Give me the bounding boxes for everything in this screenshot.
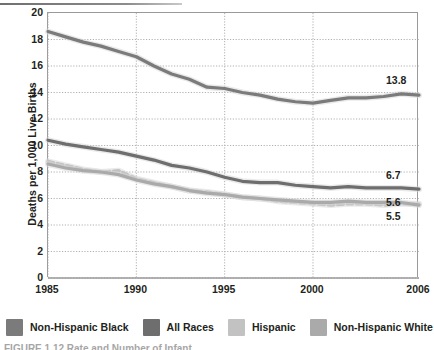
y-axis-tick-label: 14 (3, 86, 43, 98)
series-end-label: 5.6 (386, 196, 401, 208)
y-axis-tick-label: 8 (3, 165, 43, 177)
legend-swatch-all-races (143, 319, 160, 336)
top-rule-divider (0, 3, 182, 5)
x-axis-tick-label: 1990 (124, 283, 147, 295)
legend-swatch-hispanic (228, 319, 245, 336)
series-end-label: 6.7 (386, 169, 401, 181)
legend-item: Non-Hispanic Black (6, 319, 129, 336)
x-axis-tick-label: 2000 (300, 283, 323, 295)
y-axis-tick-label: 4 (3, 218, 43, 230)
plot-area (47, 12, 418, 277)
y-axis-tick-label: 12 (3, 112, 43, 124)
y-axis-tick-label: 10 (3, 139, 43, 151)
y-axis-tick-label: 0 (3, 271, 43, 283)
legend-item-label: All Races (167, 321, 214, 333)
figure-caption: FIGURE 1.12 Rate and Number of Infant (4, 343, 192, 350)
legend-swatch-non-hispanic-white (310, 319, 327, 336)
x-axis-tick-label: 1985 (35, 283, 58, 295)
series-end-label: 5.5 (386, 210, 401, 222)
y-axis-tick-labels: 02468101214161820 (0, 12, 43, 277)
chart-legend: Non-Hispanic BlackAll RacesHispanicNon-H… (6, 316, 434, 338)
legend-item: All Races (143, 319, 214, 336)
y-axis-tick-label: 6 (3, 192, 43, 204)
x-axis-tick-labels: 19851990199520002006 (0, 283, 434, 299)
legend-item: Hispanic (228, 319, 296, 336)
legend-swatch-non-hispanic-black (6, 319, 23, 336)
y-axis-tick-label: 2 (3, 245, 43, 257)
legend-item-label: Hispanic (252, 321, 296, 333)
legend-item-label: Non-Hispanic Black (30, 321, 129, 333)
legend-item-label: Non-Hispanic White (334, 321, 433, 333)
x-axis-tick-label: 1995 (212, 283, 235, 295)
figure-container: Deaths per 1,000 Live Births 02468101214… (0, 0, 434, 350)
legend-item: Non-Hispanic White (310, 319, 433, 336)
y-axis-tick-label: 18 (3, 33, 43, 45)
chart-canvas (48, 13, 419, 278)
y-axis-tick-label: 20 (3, 6, 43, 18)
series-end-label: 13.8 (386, 74, 406, 86)
y-axis-tick-label: 16 (3, 59, 43, 71)
x-axis-tick-label: 2006 (406, 283, 429, 295)
